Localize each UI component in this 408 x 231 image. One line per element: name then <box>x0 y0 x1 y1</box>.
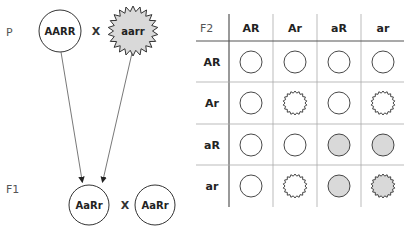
punnett-square: F2 AR Ar aR ar AR Ar aR ar <box>196 14 404 207</box>
p-generation-label: P <box>6 26 13 39</box>
f1-cross-symbol: X <box>121 199 130 212</box>
cell-circle-icon <box>284 134 306 156</box>
p-cross-symbol: X <box>92 25 101 38</box>
f1-left-genotype: AaRr <box>75 200 102 211</box>
cell-star-icon <box>371 91 395 115</box>
genetics-cross-diagram: P AARR X aarr F1 AaRr X AaRr F2 AR Ar aR… <box>0 0 408 231</box>
col-header: ar <box>377 22 390 35</box>
arrow-left-to-f1 <box>61 52 82 180</box>
row-header: ar <box>206 180 219 193</box>
cell-circle-icon <box>328 134 350 156</box>
row-header: Ar <box>205 97 220 110</box>
cell-circle-icon <box>328 92 350 114</box>
parent-left-circle: AARR <box>39 10 81 52</box>
f1-right-genotype: AaRr <box>141 200 168 211</box>
parent-right-genotype: aarr <box>121 26 144 37</box>
cell-circle-icon <box>328 175 350 197</box>
cell-circle-icon <box>240 51 262 73</box>
f2-corner-label: F2 <box>200 22 213 35</box>
f1-right-circle: AaRr <box>135 185 175 225</box>
arrow-right-to-f1 <box>103 53 132 180</box>
punnett-cells <box>240 51 395 198</box>
row-header: aR <box>204 139 220 152</box>
cell-circle-icon <box>240 92 262 114</box>
cell-star-icon <box>371 174 395 198</box>
parent-left-genotype: AARR <box>45 26 76 37</box>
cell-circle-icon <box>284 51 306 73</box>
cell-star-icon <box>283 91 307 115</box>
col-header: AR <box>243 22 261 35</box>
col-header: aR <box>331 22 347 35</box>
cell-star-icon <box>283 174 307 198</box>
col-header: Ar <box>288 22 303 35</box>
f1-generation-label: F1 <box>6 183 19 196</box>
cell-circle-icon <box>372 134 394 156</box>
parent-right-star: aarr <box>108 6 158 56</box>
cell-circle-icon <box>328 51 350 73</box>
cell-circle-icon <box>240 134 262 156</box>
row-header: AR <box>204 56 222 69</box>
cell-circle-icon <box>372 51 394 73</box>
f1-left-circle: AaRr <box>69 185 109 225</box>
cell-circle-icon <box>240 175 262 197</box>
